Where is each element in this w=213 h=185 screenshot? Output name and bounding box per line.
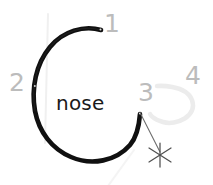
annotation-number-4: 4	[185, 63, 201, 88]
annotation-number-3: 3	[138, 80, 154, 105]
figure-canvas: 1 2 3 4 nose	[0, 0, 213, 185]
faint-vertical-line	[45, 14, 48, 143]
star-marker-icon	[149, 143, 171, 167]
arc-endpoint-top-dot	[100, 29, 102, 31]
nose-text-label: nose	[56, 93, 104, 113]
arc-endpoint-left-dot	[34, 85, 36, 87]
faint-hook-curve	[150, 86, 193, 123]
annotation-number-2: 2	[9, 70, 25, 95]
annotation-number-1: 1	[104, 11, 120, 36]
